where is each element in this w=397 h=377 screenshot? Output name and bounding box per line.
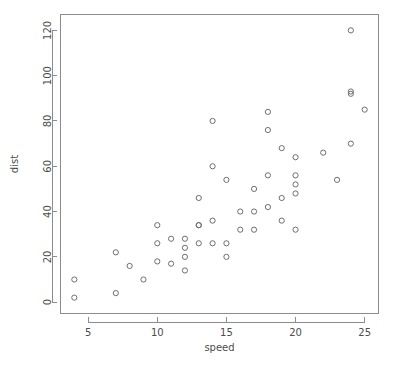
data-point bbox=[293, 191, 298, 196]
data-point bbox=[293, 173, 298, 178]
data-point bbox=[321, 150, 326, 155]
x-tick-label: 5 bbox=[85, 327, 91, 338]
data-point bbox=[169, 236, 174, 241]
data-point bbox=[251, 209, 256, 214]
data-point bbox=[224, 241, 229, 246]
data-point bbox=[182, 245, 187, 250]
x-tick-label: 20 bbox=[289, 327, 302, 338]
data-point bbox=[348, 141, 353, 146]
y-tick-label: 40 bbox=[42, 205, 53, 218]
data-point bbox=[113, 250, 118, 255]
data-point bbox=[224, 177, 229, 182]
data-point bbox=[362, 107, 367, 112]
data-point bbox=[279, 195, 284, 200]
data-point bbox=[334, 177, 339, 182]
data-point bbox=[169, 261, 174, 266]
y-axis: 020406080100120 bbox=[42, 21, 57, 306]
x-tick-label: 10 bbox=[151, 327, 164, 338]
data-point bbox=[348, 28, 353, 33]
data-point bbox=[251, 186, 256, 191]
data-point bbox=[238, 209, 243, 214]
y-tick-label: 80 bbox=[42, 115, 53, 128]
data-point bbox=[293, 227, 298, 232]
data-point bbox=[265, 127, 270, 132]
data-point bbox=[196, 241, 201, 246]
data-point bbox=[293, 182, 298, 187]
x-axis: 510152025 bbox=[85, 317, 371, 338]
y-tick-label: 60 bbox=[42, 160, 53, 173]
plot-canvas: 510152025speed020406080100120dist bbox=[0, 0, 397, 377]
data-point bbox=[238, 227, 243, 232]
data-point-group bbox=[72, 28, 368, 300]
data-point bbox=[279, 218, 284, 223]
y-tick-label: 20 bbox=[42, 251, 53, 264]
x-tick-label: 25 bbox=[358, 327, 371, 338]
y-tick-label: 0 bbox=[42, 299, 53, 305]
data-point bbox=[265, 173, 270, 178]
x-tick-label: 15 bbox=[220, 327, 233, 338]
data-point bbox=[155, 259, 160, 264]
data-point bbox=[251, 227, 256, 232]
data-point bbox=[182, 268, 187, 273]
data-point bbox=[293, 155, 298, 160]
data-point bbox=[141, 277, 146, 282]
data-point bbox=[265, 109, 270, 114]
data-point bbox=[155, 241, 160, 246]
data-point bbox=[210, 218, 215, 223]
data-point bbox=[224, 254, 229, 259]
data-point bbox=[113, 291, 118, 296]
data-point bbox=[279, 146, 284, 151]
data-point bbox=[265, 204, 270, 209]
data-point bbox=[210, 118, 215, 123]
y-tick-label: 120 bbox=[42, 21, 53, 40]
y-axis-title: dist bbox=[9, 155, 20, 173]
data-point bbox=[72, 277, 77, 282]
data-point bbox=[210, 241, 215, 246]
data-point bbox=[196, 195, 201, 200]
data-point bbox=[127, 263, 132, 268]
scatter-plot-figure: 510152025speed020406080100120dist bbox=[0, 0, 397, 377]
x-axis-title: speed bbox=[204, 342, 234, 353]
data-point bbox=[196, 223, 201, 228]
data-point bbox=[210, 164, 215, 169]
y-tick-label: 100 bbox=[42, 66, 53, 85]
data-point bbox=[72, 295, 77, 300]
plot-panel-border bbox=[61, 15, 379, 314]
data-point bbox=[182, 254, 187, 259]
data-point bbox=[155, 223, 160, 228]
data-point bbox=[182, 236, 187, 241]
